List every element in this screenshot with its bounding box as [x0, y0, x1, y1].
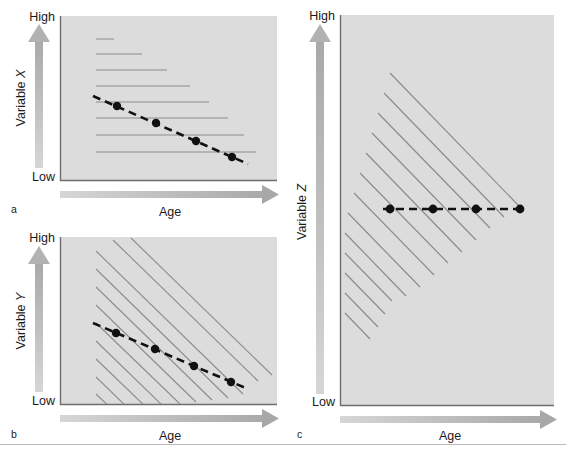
panel-b: High Low Variable Y Age b [0, 222, 300, 449]
y-axis-arrow-b [28, 246, 50, 392]
y-axis-arrow-c [309, 24, 331, 394]
y-axis-low-label-a: Low [32, 170, 56, 184]
footer-divider [0, 444, 566, 445]
y-axis-label-prefix-b: Variable [14, 301, 28, 349]
y-axis-label-variable-b: Y [14, 291, 28, 301]
x-axis-label-c: Age [439, 429, 461, 443]
plot-area-a [60, 16, 277, 180]
y-axis-low-label-b: Low [32, 394, 56, 408]
y-axis-label-prefix-a: Variable [14, 78, 28, 126]
panel-c-svg: High Low Variable Z Age c [290, 0, 566, 449]
x-axis-label-a: Age [159, 205, 181, 219]
y-axis-high-label-a: High [29, 10, 55, 24]
y-axis-label-variable-c: Z [295, 184, 309, 193]
panel-a: High Low Variable X Age a [0, 0, 300, 225]
panel-letter-c: c [297, 428, 302, 440]
y-axis-label-prefix-c: Variable [295, 192, 309, 240]
panel-letter-b: b [11, 428, 17, 440]
plot-area-b [60, 237, 277, 404]
y-axis-label-c: Variable Z [295, 184, 309, 240]
y-axis-low-label-c: Low [312, 395, 336, 409]
y-axis-high-label-c: High [309, 9, 335, 23]
panel-c: High Low Variable Z Age c [290, 0, 566, 449]
x-axis-arrow-c [340, 410, 557, 429]
figure-root: High Low Variable X Age a [0, 0, 566, 449]
x-axis-label-b: Age [159, 429, 181, 443]
panel-b-svg: High Low Variable Y Age b [0, 222, 300, 449]
panel-a-svg: High Low Variable X Age a [0, 0, 300, 225]
x-axis-arrow-a [60, 185, 279, 204]
y-axis-label-b: Variable Y [14, 291, 28, 349]
y-axis-label-variable-a: X [14, 69, 28, 79]
y-axis-arrow-a [28, 24, 50, 168]
panel-letter-a: a [11, 203, 17, 215]
y-axis-label-a: Variable X [14, 69, 28, 126]
x-axis-arrow-b [60, 409, 279, 428]
y-axis-high-label-b: High [29, 231, 55, 245]
